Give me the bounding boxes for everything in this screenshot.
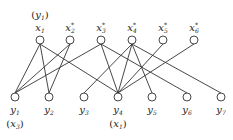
node-y7	[217, 93, 225, 101]
node-x6	[190, 36, 198, 44]
label-y4: y4	[112, 104, 123, 116]
edge-x3-y6	[101, 44, 187, 93]
edge-x4-y7	[132, 44, 221, 93]
node-x2	[66, 36, 74, 44]
node-x1	[36, 36, 44, 44]
edge-x2-y1	[15, 44, 70, 93]
node-x3	[97, 36, 105, 44]
label-x5: x*5	[158, 21, 168, 34]
annotation-y1: (x3)	[6, 118, 23, 130]
label-x4: x*4	[127, 21, 137, 34]
node-x5	[159, 36, 167, 44]
label-x6: x*6	[189, 21, 199, 34]
label-y6: y6	[181, 104, 192, 116]
label-x1: x1	[35, 22, 44, 34]
label-y2: y2	[43, 104, 54, 116]
node-y3	[80, 93, 88, 101]
edge-x3-y4	[101, 44, 118, 93]
node-y1	[11, 93, 19, 101]
bipartite-graph: x1(y1)x*2x*3x*4x*5x*6y1(x3)y2y3y4(x1)y5y…	[0, 0, 233, 140]
label-y3: y3	[78, 104, 89, 116]
label-x3: x*3	[96, 21, 106, 34]
label-y5: y5	[146, 104, 157, 116]
node-y5	[148, 93, 156, 101]
label-y7: y7	[215, 104, 226, 116]
edges	[15, 44, 221, 93]
annotation-x1: (y1)	[31, 9, 48, 21]
node-x4	[128, 36, 136, 44]
label-y1: y1	[9, 104, 19, 116]
edge-x1-y2	[40, 44, 49, 93]
label-x2: x*2	[65, 21, 75, 34]
node-y2	[45, 93, 53, 101]
labels: x1(y1)x*2x*3x*4x*5x*6y1(x3)y2y3y4(x1)y5y…	[6, 9, 226, 130]
annotation-y4: (x1)	[109, 118, 126, 130]
edge-x4-y5	[132, 44, 152, 93]
node-y4	[114, 93, 122, 101]
node-y6	[183, 93, 191, 101]
